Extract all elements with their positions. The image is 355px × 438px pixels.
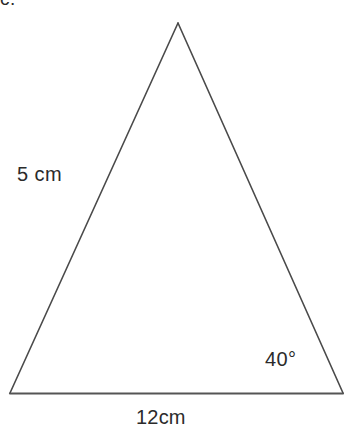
triangle-diagram [0,0,355,438]
geometry-figure: c. 5 cm 40° 12cm [0,0,355,438]
base-length-label: 12cm [136,407,186,427]
triangle-left-side [10,23,178,393]
left-side-length-label: 5 cm [17,164,62,184]
triangle-right-side [178,23,343,393]
bottom-right-angle-label: 40° [265,349,296,369]
